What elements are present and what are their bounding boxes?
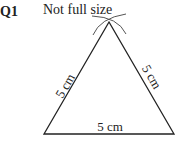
left-side-label: 5 cm (52, 71, 78, 101)
construction-arc-left (93, 14, 126, 35)
construction-arc-right (92, 16, 126, 34)
base-label: 5 cm (97, 119, 123, 134)
triangle-diagram: 5 cm 5 cm 5 cm (0, 0, 176, 141)
right-side-label: 5 cm (139, 62, 165, 92)
